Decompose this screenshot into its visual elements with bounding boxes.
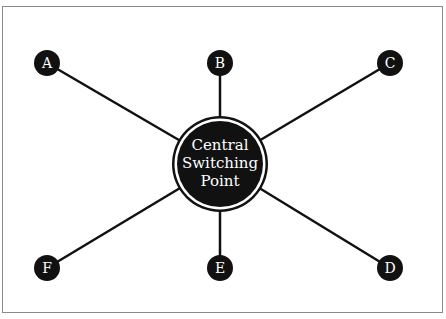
center-label-line-1: Central [192, 136, 249, 154]
star-network-diagram: A B C D E F Central Switching Point [0, 0, 446, 319]
center-label-line-2: Switching [182, 154, 258, 172]
node-b-label: B [215, 55, 225, 71]
node-e-label: E [215, 260, 225, 276]
node-f-label: F [42, 260, 52, 276]
node-c: C [377, 50, 403, 76]
center-label-line-3: Point [200, 172, 239, 190]
node-d: D [377, 255, 403, 281]
node-f: F [34, 255, 60, 281]
node-c-label: C [385, 55, 396, 71]
node-e: E [207, 255, 233, 281]
node-a: A [34, 50, 60, 76]
central-switching-point: Central Switching Point [172, 116, 268, 212]
node-d-label: D [384, 260, 395, 276]
node-a-label: A [41, 55, 53, 71]
node-b: B [207, 50, 233, 76]
